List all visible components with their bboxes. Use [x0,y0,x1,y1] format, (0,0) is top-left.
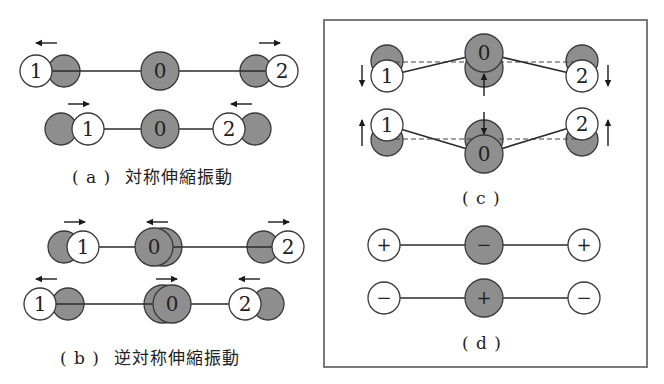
molecule-row-1: +−+ [368,226,600,264]
atom-1: 1 [20,55,52,87]
atom-label: 1 [82,117,95,141]
atom-2: 2 [229,288,261,320]
molecule-row-2: −+− [368,279,600,317]
atom-label: − [576,287,591,308]
atom-0: 0 [141,52,179,90]
caption-a-title: 対称伸縮振動 [125,167,233,187]
panel-b-antisymmetric-stretch: 102102 [24,222,304,323]
atom-label: 1 [34,292,47,316]
vibration-modes-diagram: 102102 102102 102102 +−+−+− [0,0,664,384]
atom-2: 2 [272,231,304,263]
caption-d-tag: ( d ) [462,333,502,353]
atom-+: + [465,279,503,317]
atom-2: 2 [213,113,245,145]
atom-−: − [368,282,400,314]
molecule-row-2: 102 [24,279,284,323]
atom-0: 0 [141,110,179,148]
atom-label: 2 [276,59,289,83]
atom-−: − [465,226,503,264]
atom-label: 2 [576,64,589,88]
atom-label: 0 [154,59,167,83]
caption-c-tag: ( c ) [462,188,501,208]
bending-row-2: 102 [362,108,608,173]
atom-label: 0 [148,235,161,259]
atom-label: + [376,234,391,255]
atom-1: 1 [371,109,403,141]
bending-row-1: 102 [362,34,608,96]
atom-label: 1 [77,235,90,259]
atom-2: 2 [566,60,598,92]
atom-1: 1 [371,60,403,92]
caption-c: ( c ) [462,188,501,208]
atom-0: 0 [465,34,503,72]
atom-+: + [368,229,400,261]
atom-1: 1 [72,113,104,145]
atom-label: 1 [30,59,43,83]
caption-b-title: 逆対称伸縮振動 [114,348,240,368]
atom-0: 0 [153,285,191,323]
atom-1: 1 [24,288,56,320]
atom-label: 1 [381,64,394,88]
atom-label: − [476,234,491,255]
molecule-row-1: 102 [20,43,298,90]
caption-b-tag: ( b ) [60,348,100,368]
atom-2: 2 [566,108,598,140]
atom-label: 1 [381,113,394,137]
panel-c-bending-mode: 102102 [362,34,608,173]
atom-label: 2 [223,117,236,141]
caption-b: ( b )逆対称伸縮振動 [60,344,240,369]
atom-label: 2 [576,112,589,136]
atom-label: 2 [239,292,252,316]
molecule-row-2: 102 [45,104,271,148]
atom-label: − [376,287,391,308]
atom-−: − [568,282,600,314]
atom-label: 0 [154,117,167,141]
panel-d-charge-distribution: +−+−+− [368,226,600,317]
atom-0: 0 [135,228,173,266]
atom-+: + [568,229,600,261]
atom-label: 0 [166,292,179,316]
caption-d: ( d ) [462,333,502,353]
atom-0: 0 [465,135,503,173]
atom-label: 0 [478,41,491,65]
molecule-row-1: 102 [48,222,304,266]
panel-a-symmetric-stretch: 102102 [20,43,298,148]
caption-a-tag: ( a ) [72,167,111,187]
atom-label: 2 [282,235,295,259]
atom-label: + [476,287,491,308]
atom-label: 0 [478,142,491,166]
atom-1: 1 [67,231,99,263]
atom-2: 2 [266,55,298,87]
caption-a: ( a )対称伸縮振動 [72,163,233,188]
atom-label: + [576,234,591,255]
